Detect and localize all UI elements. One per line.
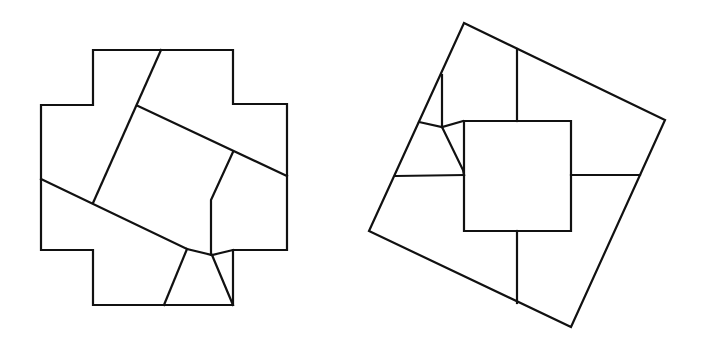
cross-cut-5 (164, 249, 187, 305)
dissection-diagram (0, 0, 702, 350)
cross-cut-1 (93, 50, 161, 203)
cross-outline (41, 50, 287, 305)
cross-cut-3 (41, 179, 233, 255)
square-cut-4 (396, 175, 464, 176)
cross-cut-6 (212, 255, 233, 305)
cross-cut-2 (138, 106, 287, 176)
inner-square (464, 121, 571, 231)
cross-cut-4 (211, 152, 233, 255)
square-cut-7 (442, 127, 464, 175)
left-cross-figure (41, 50, 287, 305)
right-square-figure (369, 23, 665, 327)
